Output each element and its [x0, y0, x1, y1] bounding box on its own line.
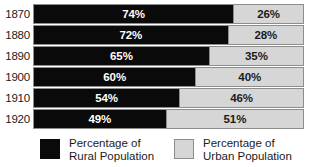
stacked-bar-track: 54% 46%	[33, 88, 304, 108]
chart-row: 1920 49% 51%	[0, 109, 311, 129]
bar-value-label-urban: 51%	[224, 113, 247, 125]
bar-segment-rural: 72%	[34, 26, 228, 44]
legend-label-urban-line2: Urban Population	[203, 150, 292, 163]
legend-label-rural: Percentage of Rural Population	[69, 136, 154, 163]
bar-segment-urban: 46%	[179, 89, 303, 107]
bar-value-label-urban: 28%	[254, 29, 277, 41]
chart-plot-area: 1870 74% 26% 1880 72% 28%	[0, 4, 311, 130]
legend-item-urban: Percentage of Urban Population	[174, 136, 292, 163]
legend-label-rural-line1: Percentage of	[69, 137, 154, 150]
bar-value-label-urban: 40%	[238, 71, 261, 83]
row-year-label: 1870	[0, 4, 30, 24]
stacked-bar-track: 60% 40%	[33, 67, 304, 87]
row-year-label: 1920	[0, 109, 30, 129]
row-year-label: 1910	[0, 88, 30, 108]
bar-segment-urban: 51%	[166, 110, 303, 128]
bar-segment-rural: 74%	[34, 5, 233, 23]
bar-value-label-rural: 65%	[110, 50, 133, 62]
bar-value-label-rural: 74%	[122, 8, 145, 20]
legend-item-rural: Percentage of Rural Population	[40, 136, 154, 163]
bar-segment-urban: 28%	[228, 26, 303, 44]
chart-row: 1900 60% 40%	[0, 67, 311, 87]
bar-value-label-rural: 60%	[103, 71, 126, 83]
legend-swatch-urban-icon	[174, 139, 194, 159]
stacked-bar-chart: 1870 74% 26% 1880 72% 28%	[0, 0, 311, 167]
bar-segment-rural: 65%	[34, 47, 209, 65]
legend-label-rural-line2: Rural Population	[69, 150, 154, 163]
bar-segment-urban: 35%	[209, 47, 303, 65]
chart-row: 1870 74% 26%	[0, 4, 311, 24]
bar-segment-urban: 40%	[195, 68, 303, 86]
chart-row: 1880 72% 28%	[0, 25, 311, 45]
bar-segment-rural: 49%	[34, 110, 166, 128]
stacked-bar-track: 65% 35%	[33, 46, 304, 66]
chart-legend: Percentage of Rural Population Percentag…	[0, 136, 311, 167]
stacked-bar-track: 49% 51%	[33, 109, 304, 129]
bar-segment-rural: 60%	[34, 68, 195, 86]
row-year-label: 1900	[0, 67, 30, 87]
bar-segment-urban: 26%	[233, 5, 303, 23]
bar-value-label-rural: 49%	[89, 113, 112, 125]
chart-row: 1890 65% 35%	[0, 46, 311, 66]
bar-segment-rural: 54%	[34, 89, 179, 107]
legend-swatch-rural-icon	[40, 139, 60, 159]
bar-value-label-urban: 26%	[257, 8, 280, 20]
row-year-label: 1880	[0, 25, 30, 45]
cropped-chart-title	[62, 0, 202, 3]
bar-value-label-rural: 72%	[119, 29, 142, 41]
stacked-bar-track: 74% 26%	[33, 4, 304, 24]
chart-row: 1910 54% 46%	[0, 88, 311, 108]
bar-value-label-urban: 35%	[245, 50, 268, 62]
legend-label-urban-line1: Percentage of	[203, 137, 292, 150]
stacked-bar-track: 72% 28%	[33, 25, 304, 45]
legend-label-urban: Percentage of Urban Population	[203, 136, 292, 163]
row-year-label: 1890	[0, 46, 30, 66]
bar-value-label-rural: 54%	[95, 92, 118, 104]
bar-value-label-urban: 46%	[230, 92, 253, 104]
